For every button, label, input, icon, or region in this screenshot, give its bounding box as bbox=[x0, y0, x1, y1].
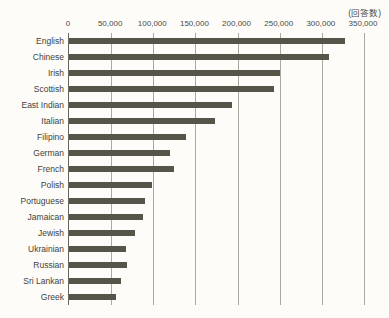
bar-row bbox=[69, 49, 363, 65]
y-category-label: East Indian bbox=[0, 100, 64, 110]
plot-area bbox=[68, 33, 363, 305]
y-category-label: Italian bbox=[0, 116, 64, 126]
bar-row bbox=[69, 209, 363, 225]
y-category-label: Filipino bbox=[0, 132, 64, 142]
bar-row bbox=[69, 241, 363, 257]
bar bbox=[69, 182, 152, 188]
bar bbox=[69, 70, 280, 76]
bar bbox=[69, 262, 127, 268]
x-tick-label: 150,000 bbox=[180, 19, 209, 28]
x-tick-label: 100,000 bbox=[138, 19, 167, 28]
bar-row bbox=[69, 81, 363, 97]
gridline bbox=[364, 33, 365, 305]
y-category-label: Ukrainian bbox=[0, 244, 64, 254]
bar bbox=[69, 134, 186, 140]
y-axis-category-labels: EnglishChineseIrishScottishEast IndianIt… bbox=[0, 33, 64, 305]
bar bbox=[69, 294, 116, 300]
y-category-label: Scottish bbox=[0, 84, 64, 94]
y-category-label: Greek bbox=[0, 292, 64, 302]
x-tick-label: 50,000 bbox=[98, 19, 122, 28]
bar bbox=[69, 278, 121, 284]
y-category-label: German bbox=[0, 148, 64, 158]
x-tick-label: 0 bbox=[66, 19, 70, 28]
y-category-label: English bbox=[0, 36, 64, 46]
bar bbox=[69, 86, 274, 92]
bars-layer bbox=[69, 33, 363, 305]
y-category-label: French bbox=[0, 164, 64, 174]
bar-row bbox=[69, 193, 363, 209]
bar bbox=[69, 166, 174, 172]
x-tick-label: 250,000 bbox=[264, 19, 293, 28]
y-category-label: Jamaican bbox=[0, 212, 64, 222]
y-category-label: Irish bbox=[0, 68, 64, 78]
bar bbox=[69, 198, 145, 204]
x-tick-label: 350,000 bbox=[349, 19, 378, 28]
bar-row bbox=[69, 129, 363, 145]
x-tick-label: 300,000 bbox=[306, 19, 335, 28]
unit-caption: (回答数) bbox=[348, 6, 381, 18]
y-category-label: Sri Lankan bbox=[0, 276, 64, 286]
bar-row bbox=[69, 33, 363, 49]
bar bbox=[69, 118, 215, 124]
y-category-label: Portuguese bbox=[0, 196, 64, 206]
x-axis-tick-labels: 050,000100,000150,000200,000250,000300,0… bbox=[0, 19, 389, 31]
x-tick-label: 200,000 bbox=[222, 19, 251, 28]
bar-row bbox=[69, 161, 363, 177]
bar-row bbox=[69, 273, 363, 289]
bar-row bbox=[69, 225, 363, 241]
y-category-label: Chinese bbox=[0, 52, 64, 62]
bar-row bbox=[69, 289, 363, 305]
bar bbox=[69, 38, 345, 44]
bar bbox=[69, 246, 126, 252]
y-category-label: Russian bbox=[0, 260, 64, 270]
bar bbox=[69, 230, 135, 236]
bar bbox=[69, 54, 329, 60]
bar bbox=[69, 150, 170, 156]
bar-row bbox=[69, 257, 363, 273]
bar-row bbox=[69, 113, 363, 129]
bar-row bbox=[69, 177, 363, 193]
y-category-label: Jewish bbox=[0, 228, 64, 238]
bar bbox=[69, 214, 143, 220]
bar bbox=[69, 102, 232, 108]
bar-row bbox=[69, 97, 363, 113]
bar-row bbox=[69, 145, 363, 161]
bar-row bbox=[69, 65, 363, 81]
bar-chart: (回答数) 050,000100,000150,000200,000250,00… bbox=[0, 0, 389, 318]
y-category-label: Polish bbox=[0, 180, 64, 190]
